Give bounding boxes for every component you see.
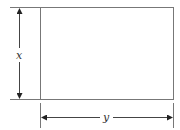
rectangle (41, 8, 174, 100)
height-label: x (16, 49, 23, 62)
dimension-diagram: x y (0, 0, 180, 130)
diagram-svg: x y (0, 0, 180, 130)
width-label: y (102, 111, 110, 124)
